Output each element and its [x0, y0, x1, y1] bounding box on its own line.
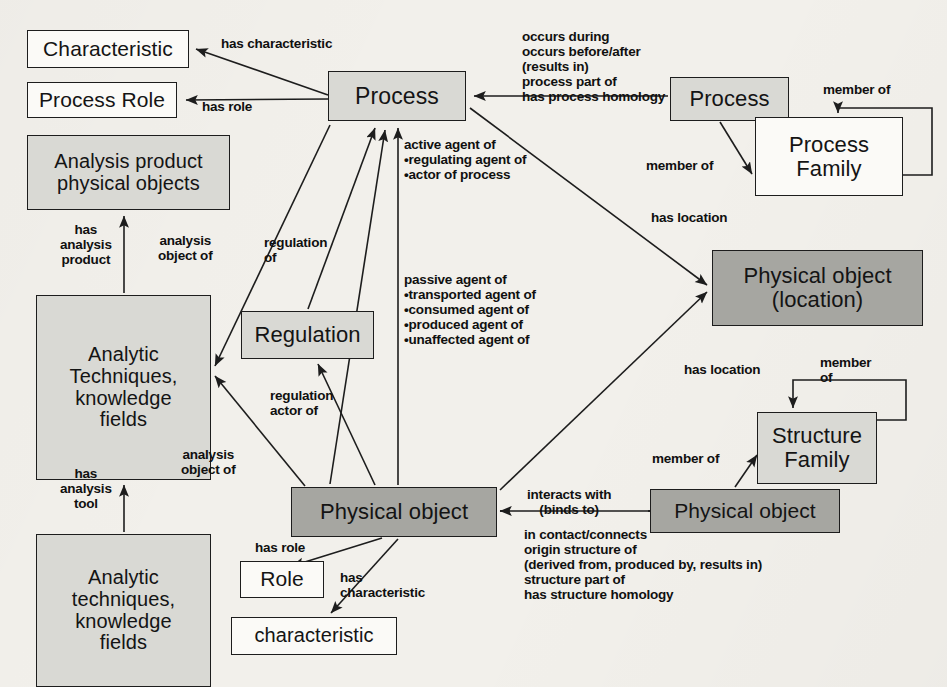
edge-label-has-analysis-tool: has analysis tool	[60, 466, 112, 511]
node-label: Analytic techniques, knowledge fields	[72, 567, 175, 653]
edge-label-has-role-bottom: has role	[255, 540, 305, 555]
node-label: Physical object	[674, 500, 816, 523]
edge-process-to-location	[470, 108, 707, 285]
node-label: Process	[355, 84, 439, 109]
edge-label-regulation-of: regulation of	[264, 235, 327, 265]
edge-regulation-to-process	[308, 128, 375, 309]
node-physical-main[interactable]: Physical object	[291, 487, 497, 537]
edge-label-analysis-object-of-1: analysis object of	[158, 233, 212, 263]
node-process-right[interactable]: Process	[670, 77, 789, 121]
node-label: Physical object (location)	[743, 264, 891, 312]
edge-label-structure-group: in contact/connects origin structure of …	[524, 527, 762, 603]
edge-label-active-agent-group: active agent of •regulating agent of •ac…	[404, 137, 526, 182]
edge-label-member-of-struct-top: member of	[820, 355, 871, 385]
edge-label-analysis-object-of-2: analysis object of	[181, 447, 235, 477]
node-analysis-product[interactable]: Analysis product physical objects	[27, 135, 230, 210]
edge-label-has-characteristic: has characteristic	[221, 36, 332, 51]
node-label: Role	[260, 568, 304, 591]
node-label: Characteristic	[43, 38, 173, 61]
node-label: characteristic	[254, 625, 373, 647]
node-label: Process Family	[789, 133, 869, 181]
edge-process-to-characteristic	[196, 49, 328, 95]
node-label: Process Role	[39, 89, 165, 112]
edge-label-passive-agent-group: passive agent of •transported agent of •…	[404, 272, 536, 348]
node-process-family[interactable]: Process Family	[755, 117, 903, 196]
edge-process-to-process-family	[720, 122, 752, 174]
node-process-main[interactable]: Process	[328, 71, 466, 121]
node-label: Structure Family	[772, 424, 862, 472]
node-physical-location[interactable]: Physical object (location)	[712, 250, 923, 326]
edge-label-has-location-top: has location	[651, 210, 727, 225]
edge-physical-to-process-passive	[330, 130, 385, 484]
node-label: Process	[689, 87, 769, 111]
node-label: Physical object	[320, 500, 468, 524]
edge-label-member-of-process-top: member of	[823, 82, 890, 97]
node-structure-family[interactable]: Structure Family	[757, 412, 877, 484]
node-process-role[interactable]: Process Role	[27, 82, 177, 118]
node-regulation[interactable]: Regulation	[241, 311, 374, 359]
edge-label-interacts-group: interacts with (binds to)	[527, 487, 611, 517]
edge-label-has-analysis-product: has analysis product	[60, 222, 112, 267]
edge-label-has-characteristic-bottom: has characteristic	[340, 570, 425, 600]
node-label: Regulation	[254, 323, 360, 347]
edge-label-has-role: has role	[202, 99, 252, 114]
edge-physical-right-to-struct	[735, 455, 757, 487]
edge-label-regulation-actor-of: regulation actor of	[270, 388, 333, 418]
node-characteristic-bottom[interactable]: characteristic	[231, 617, 397, 655]
node-label: Analytic Techniques, knowledge fields	[70, 344, 178, 430]
node-label: Analysis product physical objects	[54, 151, 202, 194]
edge-label-occurs-group: occurs during occurs before/after (resul…	[522, 29, 665, 105]
edge-label-has-location-bottom: has location	[684, 362, 760, 377]
node-analytic-lower[interactable]: Analytic techniques, knowledge fields	[36, 534, 211, 687]
diagram-canvas: Characteristic Process Role Analysis pro…	[0, 0, 947, 687]
node-characteristic-top[interactable]: Characteristic	[27, 30, 189, 68]
edge-label-member-of-process: member of	[646, 158, 713, 173]
edge-label-member-of-struct: member of	[652, 451, 719, 466]
node-role[interactable]: Role	[240, 561, 324, 598]
